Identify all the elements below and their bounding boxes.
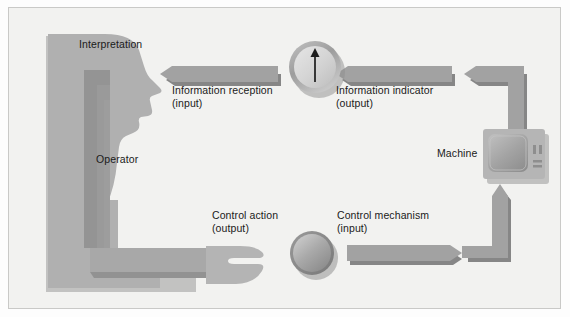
arrow-elbow-bottom-right (462, 184, 511, 262)
machine-control-slot-left (533, 145, 536, 154)
arrow-information-reception (160, 66, 281, 86)
operator-hand (206, 246, 264, 284)
arrow-information-reception-body (160, 66, 278, 82)
arrow-elbow-top-right (464, 66, 527, 137)
label-information-indicator: Information indicator (output) (336, 84, 433, 109)
operator-arm (90, 248, 214, 272)
machine-screen (488, 134, 528, 172)
label-interpretation: Interpretation (79, 38, 142, 51)
label-control-mechanism: Control mechanism (input) (337, 209, 429, 234)
arrow-elbow-bottom-right-body (462, 184, 508, 258)
machine-control-bar-1 (533, 160, 542, 163)
machine-monitor (483, 129, 549, 184)
label-operator: Operator (96, 153, 138, 166)
label-information-reception: Information reception (input) (172, 84, 273, 109)
label-control-action: Control action (output) (212, 209, 278, 234)
arrow-information-indicator (336, 66, 455, 86)
arrow-information-indicator-body (336, 66, 452, 82)
arrow-elbow-top-right-body (464, 66, 524, 133)
diagram-figure: Interpretation Operator Machine Informat… (0, 0, 570, 317)
control-knob (290, 231, 338, 280)
arrow-control-mechanism (347, 245, 462, 265)
machine-control-slot-right (539, 145, 542, 154)
label-machine: Machine (437, 147, 477, 160)
arrow-control-mechanism-body (347, 245, 462, 261)
control-knob-face (293, 234, 331, 272)
operator-arm-shadow (90, 272, 218, 278)
machine-control-bar-2 (533, 165, 542, 168)
